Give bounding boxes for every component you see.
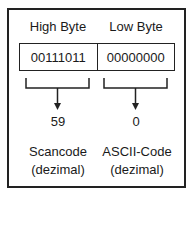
high-byte-bracket xyxy=(26,78,89,88)
low-byte-bracket xyxy=(104,78,167,88)
arrow-down-icon xyxy=(54,103,61,110)
ascii-value: 0 xyxy=(116,114,156,129)
ascii-code-label-unit: (dezimal) xyxy=(98,162,176,177)
scancode-value: 59 xyxy=(38,114,78,129)
scancode-label: Scancode xyxy=(20,144,96,159)
arrow-down-icon xyxy=(132,103,139,110)
ascii-code-label: ASCII-Code xyxy=(98,144,176,159)
scancode-label-unit: (dezimal) xyxy=(20,162,96,177)
